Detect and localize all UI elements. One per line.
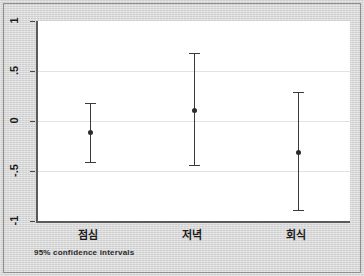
y-axis-label: 0 bbox=[9, 107, 20, 135]
y-axis-label: .5 bbox=[9, 57, 20, 85]
plot-inner bbox=[38, 21, 350, 221]
x-axis-label: 회식 bbox=[256, 226, 336, 242]
plot-area bbox=[36, 21, 350, 223]
error-bar-cap-upper bbox=[189, 53, 200, 54]
data-point-marker bbox=[192, 108, 197, 113]
y-axis-tick bbox=[30, 221, 35, 222]
y-axis-label: -.5 bbox=[9, 157, 20, 185]
x-axis-label: 저녁 bbox=[152, 226, 232, 242]
error-bar-cap-upper bbox=[293, 92, 304, 93]
data-point-marker bbox=[296, 150, 301, 155]
chart-caption: 95% confidence intervals bbox=[34, 248, 134, 257]
error-bar-cap-upper bbox=[85, 103, 96, 104]
gridline bbox=[38, 171, 350, 172]
y-axis-tick bbox=[30, 71, 35, 72]
x-axis-label: 점심 bbox=[48, 226, 128, 242]
data-point-marker bbox=[88, 130, 93, 135]
y-axis-label: -1 bbox=[9, 207, 20, 235]
y-axis-tick bbox=[30, 171, 35, 172]
y-axis-tick bbox=[30, 21, 35, 22]
error-bar-cap-lower bbox=[189, 165, 200, 166]
figure-canvas: 1.50-.5-1 점심저녁회식 95% confidence interval… bbox=[0, 0, 364, 276]
y-axis-label: 1 bbox=[9, 7, 20, 35]
y-axis-tick bbox=[30, 121, 35, 122]
error-bar-cap-lower bbox=[85, 162, 96, 163]
error-bar-cap-lower bbox=[293, 210, 304, 211]
